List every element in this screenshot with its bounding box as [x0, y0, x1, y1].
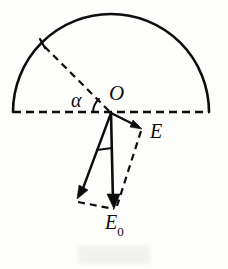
parallelogram-side-bottom-dashed — [78, 202, 114, 209]
alpha-angle-arc — [93, 99, 99, 112]
vector-E0-label-base: E — [105, 211, 117, 233]
vector-left-arrowhead — [77, 185, 88, 199]
vector-E-label: E — [150, 121, 162, 141]
parallelogram-side-right-dashed — [117, 131, 141, 206]
vector-left-shaft — [82, 113, 111, 191]
lower-angle-tick — [97, 148, 112, 150]
vector-E0-label-subscript: 0 — [117, 224, 124, 239]
vector-E0-shaft — [111, 113, 113, 202]
figure-canvas: O α E E0 — [0, 0, 228, 269]
vector-E-arrowhead — [130, 120, 142, 129]
angle-alpha-label: α — [71, 90, 82, 110]
origin-label: O — [109, 83, 124, 104]
vector-E0-label: E0 — [105, 212, 124, 236]
